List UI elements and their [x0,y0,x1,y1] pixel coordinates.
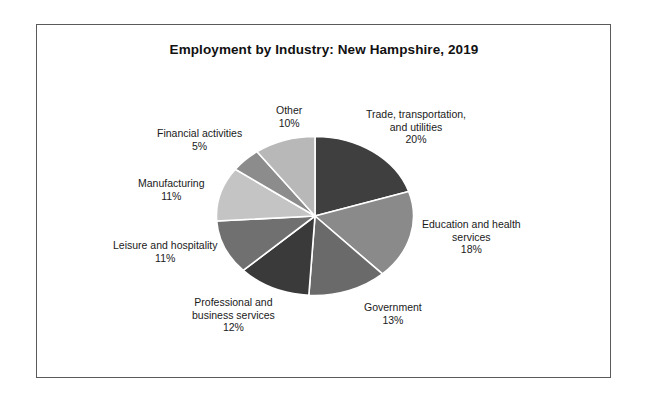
pie-label-professional-line1: Professional and [194,296,272,308]
pie-label-manufacturing: Manufacturing 11% [138,177,205,202]
pie-label-leisure-percent: 11% [113,252,217,265]
pie-label-financial-line1: Financial activities [157,127,242,139]
pie-label-education-percent: 18% [422,243,521,256]
pie-label-trade-percent: 20% [366,133,466,146]
pie-label-other: Other 10% [276,104,302,129]
pie-label-trade-transportation-utilities: Trade, transportation, and utilities 20% [366,108,466,146]
pie-label-professional-business-services: Professional and business services 12% [192,296,275,334]
pie-label-manufacturing-line1: Manufacturing [138,177,205,189]
pie-label-leisure-hospitality: Leisure and hospitality 11% [113,239,217,264]
pie-label-government: Government 13% [364,301,422,326]
pie-label-leisure-line1: Leisure and hospitality [113,239,217,251]
pie-label-government-percent: 13% [364,314,422,327]
pie-label-financial-activities: Financial activities 5% [157,127,242,152]
pie-label-trade-line2: and utilities [390,121,443,133]
pie-slice-group [216,137,413,296]
pie-chart-svg [216,136,414,296]
pie-label-other-percent: 10% [276,117,302,130]
chart-title: Employment by Industry: New Hampshire, 2… [0,42,648,57]
pie-label-professional-percent: 12% [192,321,275,334]
pie-label-manufacturing-percent: 11% [138,190,205,203]
pie-label-trade-line1: Trade, transportation, [366,108,466,120]
pie-label-professional-line2: business services [192,309,275,321]
pie-label-education-line1: Education and health [422,218,521,230]
pie-label-financial-percent: 5% [157,140,242,153]
chart-page: Employment by Industry: New Hampshire, 2… [0,0,648,399]
pie-chart [216,136,414,296]
pie-label-government-line1: Government [364,301,422,313]
pie-label-other-line1: Other [276,104,302,116]
pie-label-education-line2: services [452,231,491,243]
pie-label-education-health-services: Education and health services 18% [422,218,521,256]
